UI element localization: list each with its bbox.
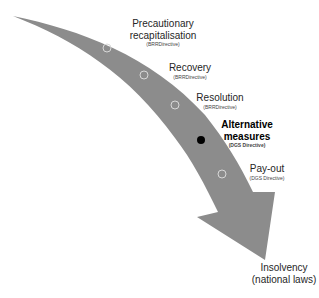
stage-title: recapitalisation bbox=[118, 30, 208, 42]
stage-label-precautionary-recapitalisation: Precautionary recapitalisation (BRRDirec… bbox=[118, 18, 208, 48]
stage-directive: (BRRDirective) bbox=[118, 42, 208, 48]
stage-label-alternative-measures: Alternative measures (DGS Directive) bbox=[216, 119, 278, 149]
stage-marker-alternative-measures bbox=[197, 136, 205, 144]
stage-label-pay-out: Pay-out (DGS Directive) bbox=[239, 163, 295, 181]
stage-title: Recovery bbox=[160, 62, 220, 74]
stage-title: measures bbox=[216, 131, 278, 143]
stage-title: Resolution bbox=[190, 92, 250, 104]
end-point-subtitle: (national laws) bbox=[244, 274, 319, 286]
stage-title: Precautionary bbox=[118, 18, 208, 30]
end-point-title: Insolvency bbox=[244, 262, 319, 274]
stage-title: Pay-out bbox=[239, 163, 295, 175]
stage-directive: (DGS Directive) bbox=[239, 176, 295, 182]
stage-label-recovery: Recovery (BRRDirective) bbox=[160, 62, 220, 80]
end-point-label-insolvency: Insolvency (national laws) bbox=[244, 262, 319, 285]
stage-title: Alternative bbox=[216, 119, 278, 131]
stage-directive: (BRRDirective) bbox=[190, 105, 250, 111]
stage-directive: (BRRDirective) bbox=[160, 75, 220, 81]
stage-directive: (DGS Directive) bbox=[216, 143, 278, 149]
stage-label-resolution: Resolution (BRRDirective) bbox=[190, 92, 250, 110]
